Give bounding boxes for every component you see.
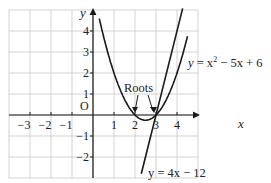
axes bbox=[9, 8, 200, 178]
origin-label: O bbox=[80, 99, 89, 113]
parabola-equation: y = x2 − 5x + 6 bbox=[186, 55, 262, 70]
svg-text:3: 3 bbox=[83, 45, 89, 59]
svg-text:2: 2 bbox=[132, 118, 138, 132]
svg-text:4: 4 bbox=[174, 118, 180, 132]
svg-text:−1: −1 bbox=[60, 118, 73, 132]
svg-text:2: 2 bbox=[83, 66, 89, 80]
svg-text:4: 4 bbox=[83, 24, 89, 38]
parabola-curve bbox=[99, 19, 187, 121]
roots-arrows bbox=[132, 95, 157, 113]
chart: −3−2−112344321−1−2 x y O Roots y = x2 − … bbox=[0, 0, 271, 183]
svg-text:1: 1 bbox=[111, 118, 117, 132]
svg-text:−2: −2 bbox=[76, 150, 89, 164]
roots-annotation: Roots bbox=[124, 81, 153, 95]
line-equation: y = 4x − 12 bbox=[148, 166, 206, 180]
y-axis-label: y bbox=[78, 5, 86, 20]
svg-text:−2: −2 bbox=[39, 118, 52, 132]
svg-text:−1: −1 bbox=[76, 129, 89, 143]
svg-text:−3: −3 bbox=[18, 118, 31, 132]
x-axis-label: x bbox=[237, 116, 244, 131]
